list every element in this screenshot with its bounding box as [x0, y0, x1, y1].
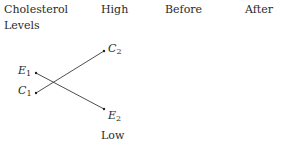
- line-c1-c2: [36, 51, 104, 93]
- point-e1-label: E1: [18, 65, 31, 80]
- point-e1-letter: E: [18, 64, 26, 77]
- line-e1-e2: [36, 73, 104, 109]
- diagram-lines: [0, 0, 283, 152]
- point-e1-sub: 1: [26, 69, 31, 78]
- point-e2-letter: E: [108, 109, 116, 122]
- point-e2-dot: [103, 108, 105, 110]
- point-e2-label: E2: [108, 110, 121, 125]
- point-e2-sub: 2: [116, 114, 121, 123]
- point-c1-sub: 1: [26, 89, 31, 98]
- point-c1-label: C1: [18, 85, 32, 100]
- point-e1-dot: [35, 72, 37, 74]
- point-c2-label: C2: [108, 43, 122, 58]
- point-c2-sub: 2: [116, 47, 121, 56]
- point-c2-dot: [103, 50, 105, 52]
- point-c1-dot: [35, 92, 37, 94]
